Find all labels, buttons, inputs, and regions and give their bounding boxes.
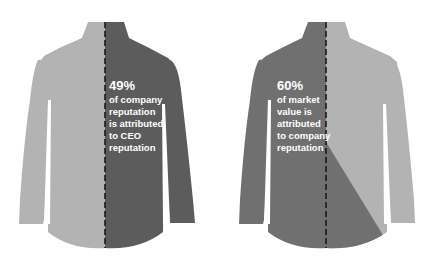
shirt-right <box>239 0 426 265</box>
shirt-left <box>0 0 205 265</box>
market-value-label: 60% of market value is attributed to com… <box>277 78 330 154</box>
caption-line: attributed <box>277 118 330 130</box>
caption-line: of market <box>277 94 330 106</box>
shirts-illustration <box>0 0 433 265</box>
caption-line: reputation <box>109 106 163 118</box>
caption-line: reputation <box>277 142 330 154</box>
caption-line: of company <box>109 94 163 106</box>
caption-line: reputation <box>109 142 163 154</box>
caption-line: value is <box>277 106 330 118</box>
caption-line: to CEO <box>109 130 163 142</box>
left-shirt-light-half <box>0 0 105 265</box>
caption-line: to company <box>277 130 330 142</box>
ceo-reputation-label: 49% of company reputation is attributed … <box>109 78 163 154</box>
caption-line: is attributed <box>109 118 163 130</box>
ceo-reputation-percent: 49% <box>109 78 163 93</box>
market-value-percent: 60% <box>277 78 330 93</box>
